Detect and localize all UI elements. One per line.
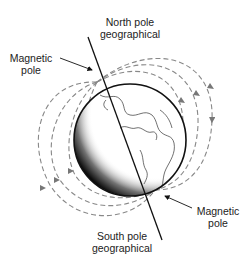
magnetic-north-pole-label: Magnetic pole — [6, 52, 56, 76]
label-line: geographical — [86, 242, 158, 254]
label-line: Magnetic — [192, 205, 244, 217]
label-line: geographical — [98, 28, 162, 40]
label-line: Magnetic — [6, 52, 56, 64]
label-line: pole — [192, 217, 244, 229]
magnetic-south-pole-label: Magnetic pole — [192, 205, 244, 229]
magnetic-north-pointer — [60, 58, 92, 70]
label-line: pole — [6, 64, 56, 76]
magnetic-south-pointer — [165, 196, 192, 208]
label-line: South pole — [86, 230, 158, 242]
south-pole-geographical-label: South pole geographical — [86, 230, 158, 254]
north-pole-geographical-label: North pole geographical — [98, 16, 162, 40]
label-line: North pole — [98, 16, 162, 28]
globe — [74, 84, 186, 196]
